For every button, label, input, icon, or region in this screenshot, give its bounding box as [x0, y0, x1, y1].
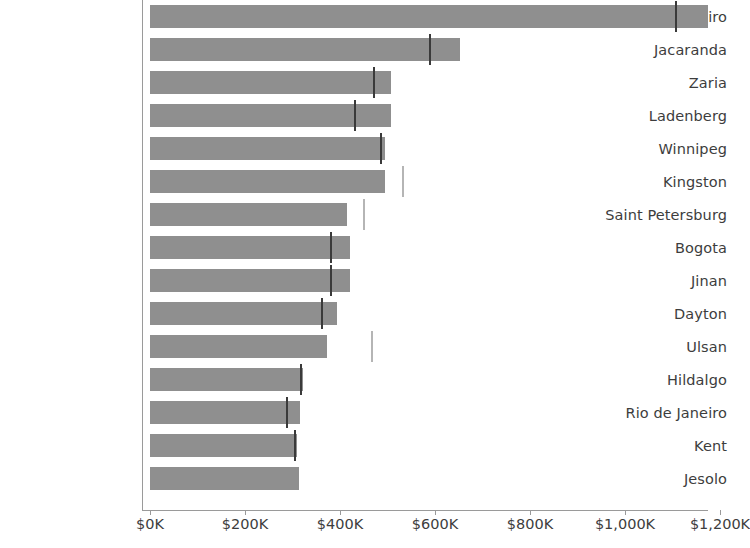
category-label: Winnipeg	[591, 132, 727, 165]
bar-row: Jinan	[0, 264, 727, 297]
bar[interactable]	[150, 335, 327, 358]
x-axis-tick-label: $0K	[136, 516, 164, 532]
reference-marker[interactable]	[294, 430, 296, 461]
category-label: Kingston	[591, 165, 727, 198]
category-label: Hildalgo	[591, 363, 727, 396]
bar-row: Dayton	[0, 297, 727, 330]
bar[interactable]	[150, 434, 297, 457]
reference-marker[interactable]	[373, 67, 375, 98]
reference-marker[interactable]	[363, 199, 365, 230]
bar-row: Kent	[0, 429, 727, 462]
category-label: Zaria	[591, 66, 727, 99]
bar-row: Ulsan	[0, 330, 727, 363]
x-axis-tick-mark	[625, 510, 626, 515]
category-label: Dayton	[591, 297, 727, 330]
reference-marker[interactable]	[402, 166, 404, 197]
bar[interactable]	[150, 71, 391, 94]
x-axis-tick-label: $200K	[222, 516, 268, 532]
reference-marker[interactable]	[321, 298, 323, 329]
x-axis-tick-label: $400K	[317, 516, 363, 532]
x-axis-line	[142, 510, 708, 511]
bar-row: Ladenberg	[0, 99, 727, 132]
bar-row: Saint Petersburg	[0, 198, 727, 231]
bar[interactable]	[150, 5, 708, 28]
x-axis-tick-mark	[530, 510, 531, 515]
reference-marker[interactable]	[300, 364, 302, 395]
category-label: Ulsan	[591, 330, 727, 363]
reference-marker[interactable]	[286, 397, 288, 428]
bar[interactable]	[150, 302, 337, 325]
category-label: Jinan	[591, 264, 727, 297]
bar[interactable]	[150, 38, 460, 61]
x-axis-tick-label: $1,000K	[595, 516, 655, 532]
category-label: Jacaranda	[591, 33, 727, 66]
reference-marker[interactable]	[330, 265, 332, 296]
bar-row: Jesolo	[0, 462, 727, 495]
x-axis-tick-mark	[435, 510, 436, 515]
x-axis-tick-label: $600K	[412, 516, 458, 532]
category-label: Bogota	[591, 231, 727, 264]
bar-row: Rio de Janeiro	[0, 0, 727, 33]
bar[interactable]	[150, 170, 385, 193]
bar-row: Kingston	[0, 165, 727, 198]
x-axis-tick-mark	[720, 510, 721, 515]
category-label: Jesolo	[591, 462, 727, 495]
bar[interactable]	[150, 137, 385, 160]
category-label: Rio de Janeiro	[591, 396, 727, 429]
x-axis-tick-mark	[150, 510, 151, 515]
bar-row: Hildalgo	[0, 363, 727, 396]
bar[interactable]	[150, 236, 350, 259]
bar[interactable]	[150, 401, 300, 424]
reference-marker[interactable]	[354, 100, 356, 131]
bar-row: Bogota	[0, 231, 727, 264]
x-axis-tick-label: $1,200K	[690, 516, 750, 532]
x-axis-tick-label: $800K	[507, 516, 553, 532]
category-label: Ladenberg	[591, 99, 727, 132]
x-axis-tick-mark	[245, 510, 246, 515]
bar[interactable]	[150, 467, 299, 490]
bar-row: Rio de Janeiro	[0, 396, 727, 429]
bar[interactable]	[150, 368, 303, 391]
x-axis-tick-mark	[340, 510, 341, 515]
category-label: Saint Petersburg	[591, 198, 727, 231]
reference-marker[interactable]	[380, 133, 382, 164]
reference-marker[interactable]	[429, 34, 431, 65]
bar-row: Winnipeg	[0, 132, 727, 165]
bar[interactable]	[150, 269, 350, 292]
reference-marker[interactable]	[330, 232, 332, 263]
bar-row: Zaria	[0, 66, 727, 99]
reference-marker[interactable]	[675, 1, 677, 32]
bar[interactable]	[150, 203, 347, 226]
reference-marker[interactable]	[371, 331, 373, 362]
category-label: Kent	[591, 429, 727, 462]
bar-row: Jacaranda	[0, 33, 727, 66]
